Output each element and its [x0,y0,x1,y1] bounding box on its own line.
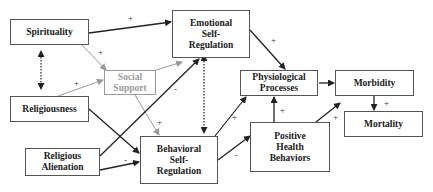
sign-alienation-emotional: - [174,84,177,94]
node-spirituality: Spirituality [10,19,89,45]
node-label-line: Processes [260,83,298,94]
node-label-line: Religious [44,151,81,162]
node-positive-health-behaviors: Positive Health Behaviors [250,122,330,172]
sign-alienation-behavioral: - [124,155,127,165]
node-physiological-processes: Physiological Processes [240,70,318,96]
node-label-line: Alienation [41,162,83,173]
node-behavioral-self-regulation: Behavioral Self- Regulation [140,136,218,184]
sign-behavioral-health: - [235,150,238,160]
node-label-line: Regulation [157,166,201,177]
edge-religiousness-behavioral [89,109,139,153]
node-label-line: Behavioral [157,144,201,155]
node-label-line: Emotional [190,18,232,29]
edge-emotional-physiological [250,30,285,69]
sign-religiousness-social: + [74,78,79,88]
node-label-line: Regulation [189,40,233,51]
node-label-line: Self- [202,29,220,40]
node-label: Spirituality [26,27,72,38]
node-morbidity: Morbidity [335,70,414,96]
node-label: Mortality [364,119,403,130]
node-label-line: Behaviors [270,153,311,164]
node-label: Religiousness [22,104,76,115]
node-label: Morbidity [354,78,396,89]
edge-behavioral-health [218,136,250,160]
sign-emotional-physiological: + [271,35,276,45]
sign-spirituality-social: + [98,47,103,57]
node-religious-alienation: Religious Alienation [25,148,100,176]
node-label-line: Positive [274,131,306,142]
sign-social-behavioral: + [157,117,162,127]
edge-social-emotional [156,62,182,70]
edge-alienation-behavioral [100,162,139,170]
sign-health-physiological: + [280,105,285,115]
node-label-line: Social [118,72,142,83]
node-label-line: Support [113,83,146,94]
edge-behavioral-physiological [215,97,246,136]
sign-behavioral-physiological: + [232,112,237,122]
sign-morbidity-mortality: + [384,98,389,108]
edge-religiousness-social [58,80,103,96]
node-label-line: Physiological [252,72,305,83]
node-label-line: Self- [170,155,188,166]
node-emotional-self-regulation: Emotional Self- Regulation [172,10,250,58]
edge-spirituality-emotional [89,22,171,33]
sign-spirituality-emotional: + [128,13,133,23]
node-mortality: Mortality [344,111,423,137]
sign-health-morbidity: + [333,112,338,122]
node-religiousness: Religiousness [10,96,89,122]
node-social-support: Social Support [104,70,156,95]
node-label-line: Health [276,142,303,153]
